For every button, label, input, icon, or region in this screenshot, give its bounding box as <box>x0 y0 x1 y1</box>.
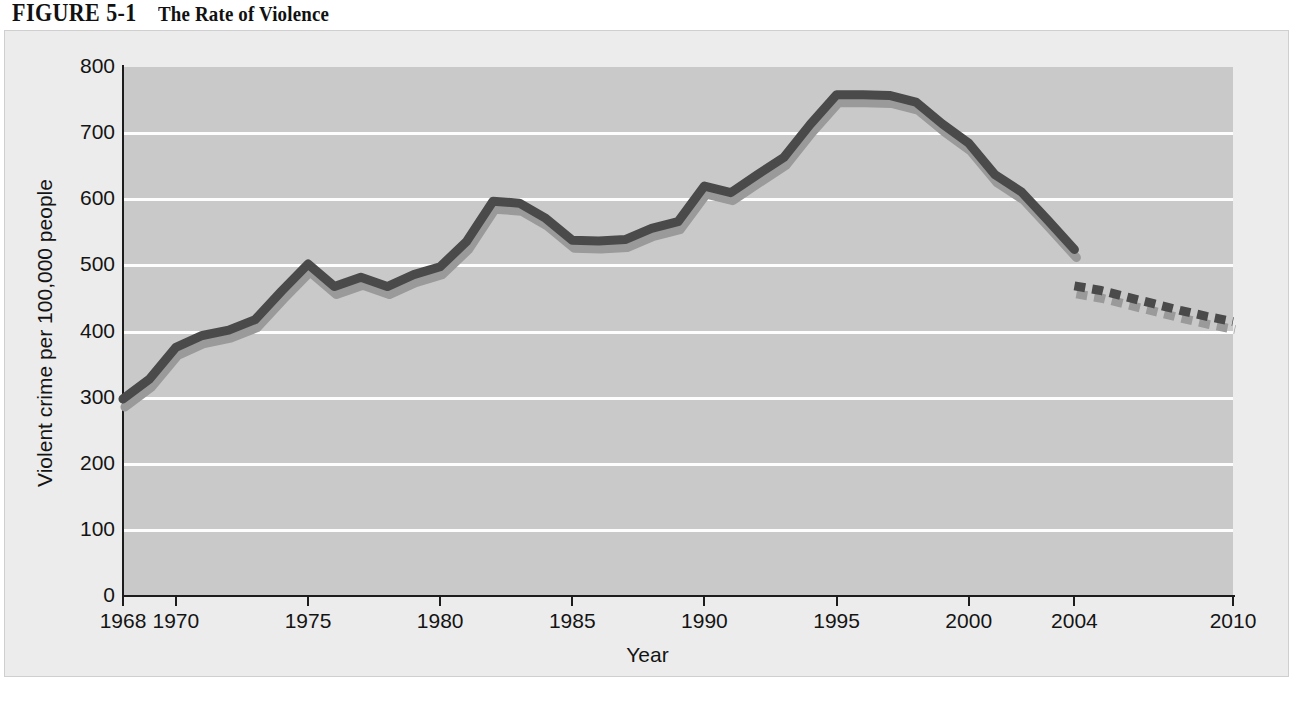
figure-panel: 8007006005004003002001000 19681970197519… <box>4 30 1289 677</box>
y-axis-title: Violent crime per 100,000 people <box>33 93 57 573</box>
gridline <box>123 198 1233 201</box>
chart-area: 8007006005004003002001000 19681970197519… <box>5 31 1290 678</box>
x-tick-mark <box>439 597 441 606</box>
y-axis-line <box>122 65 124 598</box>
plot-area <box>123 67 1233 596</box>
x-tick-label: 2000 <box>924 609 1014 633</box>
x-tick-mark <box>1232 597 1234 606</box>
x-tick-mark <box>703 597 705 606</box>
gridline <box>123 264 1233 267</box>
figure-caption: The Rate of Violence <box>158 0 329 29</box>
x-tick-label: 1985 <box>527 609 617 633</box>
y-tick-label: 700 <box>80 120 115 144</box>
gridline <box>123 331 1233 334</box>
y-tick-label: 500 <box>80 252 115 276</box>
x-tick-mark <box>175 597 177 606</box>
x-tick-mark <box>968 597 970 606</box>
x-axis-title: Year <box>5 643 1290 667</box>
y-tick-label: 300 <box>80 385 115 409</box>
gridline <box>123 397 1233 400</box>
gridline <box>123 132 1233 135</box>
gridline <box>123 529 1233 532</box>
y-tick-label: 200 <box>80 451 115 475</box>
y-tick-label: 0 <box>103 583 115 607</box>
x-axis-line <box>122 595 1235 597</box>
x-tick-label: 1970 <box>131 609 221 633</box>
x-tick-label: 1975 <box>263 609 353 633</box>
x-tick-label: 1980 <box>395 609 485 633</box>
x-tick-mark <box>307 597 309 606</box>
x-tick-label: 1990 <box>659 609 749 633</box>
gridline <box>123 463 1233 466</box>
x-tick-mark <box>571 597 573 606</box>
x-tick-mark <box>836 597 838 606</box>
x-tick-label: 2010 <box>1188 609 1278 633</box>
y-tick-label: 400 <box>80 319 115 343</box>
figure-number: FIGURE 5-1 <box>12 0 137 28</box>
y-tick-label: 100 <box>80 517 115 541</box>
y-tick-label: 800 <box>80 54 115 78</box>
figure-title: FIGURE 5-1The Rate of Violence <box>12 0 348 28</box>
x-tick-label: 2004 <box>1029 609 1119 633</box>
y-tick-label: 600 <box>80 186 115 210</box>
x-tick-mark <box>122 597 124 606</box>
x-tick-label: 1995 <box>792 609 882 633</box>
x-tick-mark <box>1073 597 1075 606</box>
